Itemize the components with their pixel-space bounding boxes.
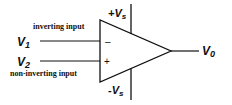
positive-supply-label: +Vs <box>108 7 127 21</box>
inverting-input-label: inverting input <box>33 22 85 31</box>
minus-sign: – <box>105 36 111 47</box>
negative-supply-label: -Vs <box>108 84 124 98</box>
v1-label: V1 <box>17 35 30 50</box>
op-amp-triangle <box>100 20 171 82</box>
op-amp-diagram: – + V1 V2 inverting input non-inverting … <box>0 0 232 105</box>
v2-label: V2 <box>17 55 30 70</box>
v0-label: V0 <box>202 44 215 59</box>
non-inverting-input-label: non-inverting input <box>10 69 77 78</box>
plus-sign: + <box>104 56 110 67</box>
